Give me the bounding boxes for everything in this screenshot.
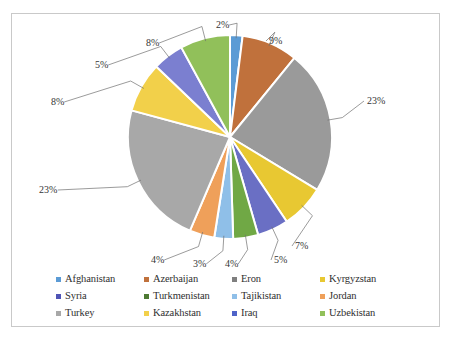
legend-item-label: Afghanistan xyxy=(65,274,115,285)
legend-swatch-icon xyxy=(56,294,61,299)
pie-slices-group xyxy=(128,35,332,239)
legend-item-eron[interactable]: Eron xyxy=(232,274,320,285)
legend-swatch-icon xyxy=(56,311,61,316)
pct-label-syria: 5% xyxy=(274,255,287,265)
legend-swatch-icon xyxy=(144,294,149,299)
legend-item-kyrgyzstan[interactable]: Kyrgyzstan xyxy=(320,274,408,285)
legend-item-label: Iraq xyxy=(241,308,258,319)
leader-line-tajikistan xyxy=(206,236,224,264)
legend-item-kazakhstan[interactable]: Kazakhstan xyxy=(144,308,232,319)
pct-label-eron: 23% xyxy=(367,96,385,106)
legend-item-turkey[interactable]: Turkey xyxy=(56,308,144,319)
legend-swatch-icon xyxy=(320,311,325,316)
legend-swatch-icon xyxy=(232,294,237,299)
legend-item-label: Turkmenistan xyxy=(153,291,210,302)
legend-item-afghanistan[interactable]: Afghanistan xyxy=(56,274,144,285)
pct-label-kazakhstan: 8% xyxy=(51,97,64,107)
legend-item-tajikistan[interactable]: Tajikistan xyxy=(232,291,320,302)
legend-item-uzbekistan[interactable]: Uzbekistan xyxy=(320,308,408,319)
legend-row: TurkeyKazakhstanIraqUzbekistan xyxy=(12,305,441,322)
leader-line-turkey xyxy=(58,180,141,190)
pie-chart-svg xyxy=(12,14,441,264)
legend-swatch-icon xyxy=(56,277,61,282)
legend-swatch-icon xyxy=(320,277,325,282)
legend-swatch-icon xyxy=(232,277,237,282)
legend-item-syria[interactable]: Syria xyxy=(56,291,144,302)
pct-label-kyrgyzstan: 7% xyxy=(295,241,308,251)
legend-swatch-icon xyxy=(144,311,149,316)
legend-item-label: Tajikistan xyxy=(241,291,281,302)
legend-swatch-icon xyxy=(232,311,237,316)
legend-item-turkmenistan[interactable]: Turkmenistan xyxy=(144,291,232,302)
pct-label-uzbekistan: 8% xyxy=(146,38,159,48)
legend-item-label: Kazakhstan xyxy=(153,308,201,319)
legend-item-label: Turkey xyxy=(65,308,94,319)
legend-item-label: Jordan xyxy=(329,291,356,302)
leader-line-jordan xyxy=(164,232,202,260)
leader-line-eron xyxy=(327,101,364,120)
legend-item-label: Kyrgyzstan xyxy=(329,274,376,285)
legend-row: AfghanistanAzerbaijanEronKyrgyzstan xyxy=(12,271,441,288)
legend-item-label: Azerbaijan xyxy=(153,274,198,285)
pie-chart-plot-area: 2%9%23%7%5%4%3%4%23%8%5%8% xyxy=(12,14,441,264)
legend-item-label: Syria xyxy=(65,291,87,302)
leader-line-kazakhstan xyxy=(64,81,144,102)
legend-item-label: Uzbekistan xyxy=(329,308,375,319)
chart-legend: AfghanistanAzerbaijanEronKyrgyzstanSyria… xyxy=(12,266,441,326)
pct-label-azerbaijan: 9% xyxy=(269,36,282,46)
pct-label-turkey: 23% xyxy=(39,185,57,195)
pct-label-afghanistan: 2% xyxy=(216,20,229,30)
pct-label-jordan: 4% xyxy=(151,255,164,265)
legend-swatch-icon xyxy=(320,294,325,299)
legend-row: SyriaTurkmenistanTajikistanJordan xyxy=(12,288,441,305)
legend-item-iraq[interactable]: Iraq xyxy=(232,308,320,319)
chart-frame: 2%9%23%7%5%4%3%4%23%8%5%8% AfghanistanAz… xyxy=(11,13,440,327)
legend-item-label: Eron xyxy=(241,274,261,285)
pct-label-iraq: 5% xyxy=(95,60,108,70)
legend-item-jordan[interactable]: Jordan xyxy=(320,291,408,302)
legend-swatch-icon xyxy=(144,277,149,282)
legend-item-azerbaijan[interactable]: Azerbaijan xyxy=(144,274,232,285)
